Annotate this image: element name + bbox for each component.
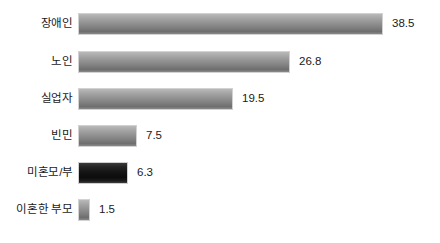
value-label: 26.8: [299, 56, 321, 68]
bar-segment: [78, 88, 233, 110]
bar-segment: [78, 162, 128, 184]
bar-segment: [78, 51, 290, 73]
bar-row: 이혼한 부모 1.5: [0, 199, 440, 221]
bar-row: 실업자 19.5: [0, 88, 440, 110]
category-label: 이혼한 부모: [0, 204, 73, 216]
value-label: 7.5: [146, 130, 162, 142]
bar-row: 빈민 7.5: [0, 125, 440, 147]
category-label: 노인: [0, 56, 73, 68]
value-label: 6.3: [137, 167, 153, 179]
horizontal-bar-chart: 장애인 38.5 노인 26.8 실업자 19.5 빈민 7.5 미혼모/부 6…: [0, 0, 440, 243]
category-label: 장애인: [0, 18, 73, 30]
bar-row: 장애인 38.5: [0, 13, 440, 35]
category-label: 빈민: [0, 130, 73, 142]
category-label: 실업자: [0, 93, 73, 105]
bar-container: 38.5: [78, 13, 414, 35]
bar-container: 6.3: [78, 162, 153, 184]
value-label: 19.5: [242, 93, 264, 105]
bar-segment: [78, 13, 383, 35]
bar-row: 노인 26.8: [0, 51, 440, 73]
bar-container: 7.5: [78, 125, 162, 147]
value-label: 1.5: [99, 204, 115, 216]
bar-row: 미혼모/부 6.3: [0, 162, 440, 184]
value-label: 38.5: [392, 18, 414, 30]
category-label: 미혼모/부: [0, 167, 73, 179]
bar-container: 19.5: [78, 88, 264, 110]
bar-segment: [78, 125, 137, 147]
bar-container: 26.8: [78, 51, 321, 73]
bar-segment: [78, 199, 90, 221]
bar-container: 1.5: [78, 199, 115, 221]
